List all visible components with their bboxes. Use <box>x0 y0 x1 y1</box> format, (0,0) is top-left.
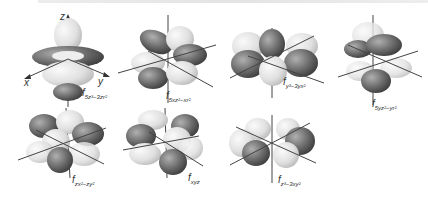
axis-label-x: x <box>24 77 29 88</box>
orbital-label-fzx2y2: f5yz²−yr² <box>372 98 397 111</box>
orbital-fzx2y2-shape <box>338 15 428 105</box>
orbital-fyz2 <box>228 28 328 102</box>
axis-label-z: z <box>60 11 65 22</box>
orbital-label-fx3: fz³−3xy² <box>278 174 301 187</box>
orbital-fzxy <box>18 108 108 182</box>
orbital-label-fz3: f5z³−3zr² <box>82 87 107 100</box>
orbital-label-fzxy: fzx²−zy² <box>72 174 94 187</box>
orbital-label-fxz2: f5xz²−xr² <box>166 90 191 103</box>
cropped-caption-text <box>38 0 428 3</box>
orbital-fzx2y2 <box>338 15 428 109</box>
orbital-fzxy-shape <box>18 108 108 178</box>
orbital-fx3-shape <box>228 115 318 185</box>
orbital-fxyz <box>123 108 213 182</box>
axis-label-y: y <box>98 76 103 87</box>
orbital-fx3 <box>228 115 318 189</box>
orbital-label-fxyz: fxyz <box>188 172 200 185</box>
orbital-label-fyz2: fy³−3yx² <box>283 76 306 89</box>
orbital-fxyz-shape <box>123 108 213 178</box>
orbital-fyz2-shape <box>228 28 328 98</box>
